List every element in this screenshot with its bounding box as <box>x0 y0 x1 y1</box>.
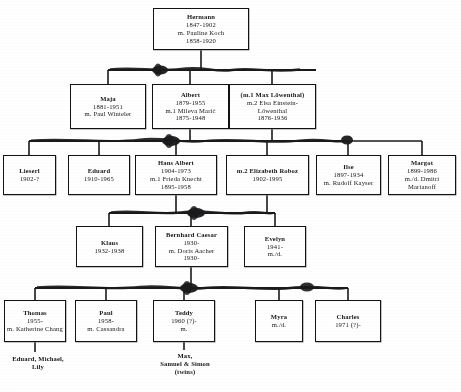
node-text-line: Teddy <box>175 309 193 317</box>
node-text-line: 1847-1902 <box>186 21 216 29</box>
node-charles: Charles1971 (?)- <box>315 300 381 342</box>
node-text-line: m.1 Mileva Marić <box>165 107 215 115</box>
node-text-line: 1876-1936 <box>258 114 288 122</box>
node-teddy: Teddy1960 (?)-m. <box>153 300 215 342</box>
node-text-line: 1930- <box>183 239 199 247</box>
node-albert: Albert1879-1955m.1 Mileva Marić1875-1948 <box>152 84 229 129</box>
node-text-line: Eduard <box>88 167 111 175</box>
node-lieserl: Lieserl1902-? <box>3 155 56 195</box>
free-text-line: Max, <box>145 352 225 360</box>
node-text-line: Hans Albert <box>158 159 194 167</box>
node-text-line: 1902-1995 <box>253 175 283 183</box>
node-text-line: 1879-1955 <box>176 99 206 107</box>
node-elizabeth-roboz: m.2 Elizabeth Roboz1902-1995 <box>226 155 309 195</box>
node-text-line: m.2 Elsa Einstein- <box>247 99 298 107</box>
free-text-line: Eduard, Michael, <box>3 355 73 363</box>
node-text-line: Thomas <box>23 309 47 317</box>
node-myra: Myram./d. <box>255 300 303 342</box>
node-maja: Maja1881-1951m. Paul Winteler <box>70 84 146 129</box>
node-text-line: Maja <box>100 95 116 103</box>
node-text-line: Klaus <box>101 239 118 247</box>
node-text-line: 1910-1965 <box>84 175 114 183</box>
children-of-teddy: Max,Samuel & Simon(twins) <box>145 352 225 377</box>
node-eduard: Eduard1910-1965 <box>68 155 130 195</box>
node-text-line: Hermann <box>187 13 215 21</box>
node-text-line: (m.1 Max Löwenthal) <box>241 91 305 99</box>
node-text-line: Ilse <box>343 163 354 171</box>
node-text-line: Charles <box>336 313 359 321</box>
node-evelyn: Evelyn1941-m./d. <box>244 226 306 267</box>
node-klaus: Klaus1932-1938 <box>76 226 143 267</box>
node-text-line: m./d. <box>272 321 286 329</box>
node-text-line: 1932-1938 <box>95 247 125 255</box>
node-margot: Margot1899-1986m./d. DmitriMarianoff <box>388 155 456 195</box>
node-text-line: m. <box>180 325 187 333</box>
node-text-line: 1899-1986 <box>407 167 437 175</box>
node-elsa: (m.1 Max Löwenthal)m.2 Elsa Einstein-Löw… <box>229 84 316 129</box>
node-text-line: Löwenthal <box>258 107 288 115</box>
node-text-line: m. Pauline Koch <box>178 29 224 37</box>
node-text-line: 1930- <box>183 254 199 262</box>
node-text-line: 1895-1958 <box>161 183 191 191</box>
free-text-line: Samuel & Simon <box>145 360 225 368</box>
node-text-line: 1904-1973 <box>161 167 191 175</box>
node-text-line: 1875-1948 <box>176 114 206 122</box>
node-text-line: Lieserl <box>19 167 39 175</box>
node-text-line: Albert <box>181 91 200 99</box>
node-text-line: 1971 (?)- <box>335 321 361 329</box>
node-hans-albert: Hans Albert1904-1973m.1 Frieda Knecht189… <box>135 155 217 195</box>
node-text-line: m.1 Frieda Knecht <box>150 175 202 183</box>
node-text-line: 1955- <box>27 317 43 325</box>
node-text-line: m. Cassandra <box>87 325 124 333</box>
free-text-line: (twins) <box>145 368 225 376</box>
node-text-line: Paul <box>99 309 112 317</box>
node-text-line: m. Katherine Chang <box>7 325 63 333</box>
node-text-line: m./d. Dmitri <box>405 175 440 183</box>
node-text-line: 1897-1934 <box>334 171 364 179</box>
node-ilse: Ilse1897-1934m. Rudolf Kayser <box>316 155 381 195</box>
node-text-line: 1958- <box>98 317 114 325</box>
free-text-line: Lily <box>3 363 73 371</box>
node-text-line: 1960 (?)- <box>171 317 197 325</box>
node-text-line: 1941- <box>267 243 283 251</box>
family-tree-diagram: Hermann1847-1902m. Pauline Koch1858-1920… <box>0 0 461 392</box>
connector-lines <box>0 0 461 392</box>
node-hermann: Hermann1847-1902m. Pauline Koch1858-1920 <box>153 8 249 50</box>
node-text-line: 1858-1920 <box>186 37 216 45</box>
node-text-line: Margot <box>411 159 433 167</box>
node-thomas: Thomas1955-m. Katherine Chang <box>4 300 66 342</box>
node-bernhard-caesar: Bernhard Caesar1930-m. Doris Aacher1930- <box>155 226 228 267</box>
node-text-line: m.2 Elizabeth Roboz <box>237 167 298 175</box>
page-vignette <box>0 0 461 392</box>
scan-grain-overlay <box>0 0 461 392</box>
node-text-line: m. Rudolf Kayser <box>324 179 373 187</box>
node-text-line: Bernhard Caesar <box>166 231 217 239</box>
node-text-line: Marianoff <box>408 183 436 191</box>
node-text-line: 1881-1951 <box>93 103 123 111</box>
node-paul: Paul1958-m. Cassandra <box>75 300 137 342</box>
node-text-line: Evelyn <box>265 235 285 243</box>
children-of-thomas: Eduard, Michael,Lily <box>3 355 73 371</box>
node-text-line: m. Paul Winteler <box>85 110 132 118</box>
node-text-line: m. Doris Aacher <box>169 247 215 255</box>
node-text-line: Myra <box>271 313 287 321</box>
node-text-line: 1902-? <box>20 175 39 183</box>
node-text-line: m./d. <box>268 250 282 258</box>
